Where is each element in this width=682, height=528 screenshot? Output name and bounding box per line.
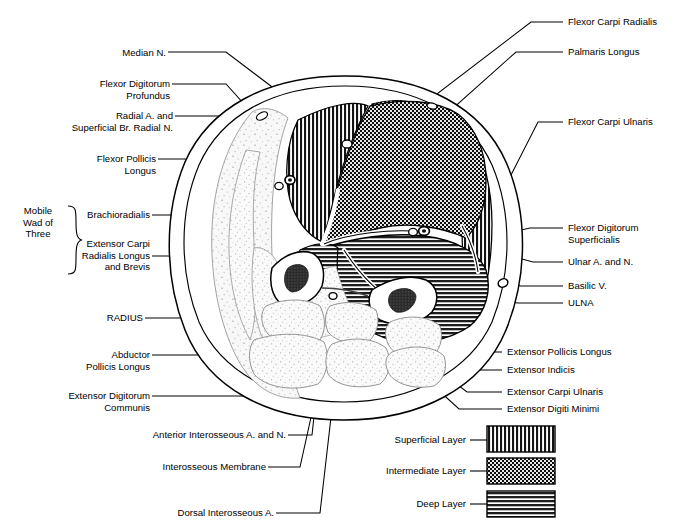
label-extensor-pollicis-longus: Extensor Pollicis Longus [507, 346, 612, 358]
ulnar-nerve [409, 228, 418, 235]
label-flexor-digitorum-profundus: Flexor Digitorum Profundus [100, 78, 170, 101]
label-palmaris-longus: Palmaris Longus [568, 46, 639, 58]
label-basilic-v: Basilic V. [568, 280, 607, 292]
legend-swatch-deep [487, 491, 555, 517]
label-anterior-interosseous-a-and-n: Anterior Interosseous A. and N. [153, 429, 286, 441]
extensor-digitorum-communis-muscle [250, 334, 328, 388]
extensor-pollicis-longus-muscle [326, 303, 378, 343]
legend-swatch-superficial [487, 426, 555, 452]
label-mobile-wad-of-three: Mobile Wad of Three [12, 205, 64, 240]
label-radius: RADIUS [107, 312, 143, 324]
legend-label-intermediate-layer: Intermediate Layer [386, 465, 466, 477]
anterior-interosseous-artery [329, 293, 337, 300]
label-flexor-pollicis-longus: Flexor Pollicis Longus [97, 153, 156, 176]
label-ulna: ULNA [568, 297, 594, 309]
label-flexor-digitorum-superficialis: Flexor Digitorum Superficialis [568, 222, 638, 245]
label-abductor-pollicis-longus: Abductor Pollicis Longus [86, 349, 150, 372]
label-flexor-carpi-ulnaris: Flexor Carpi Ulnaris [568, 116, 653, 128]
legend-label-deep-layer: Deep Layer [416, 498, 466, 510]
extensor-indicis-muscle [326, 339, 389, 387]
superficial-radial-nerve [275, 182, 283, 189]
label-extensor-digitorum-communis: Extensor Digitorum Communis [68, 390, 150, 413]
label-extensor-digiti-minimi: Extensor Digiti Minimi [507, 403, 599, 415]
legend-label-superficial-layer: Superficial Layer [395, 434, 466, 446]
label-ulnar-a-and-n: Ulnar A. and N. [568, 256, 633, 268]
label-brachioradialis: Brachioradialis [87, 209, 150, 221]
legend-swatch-intermediate [487, 458, 555, 484]
legend-swatches [470, 426, 555, 517]
median-nerve [342, 140, 352, 148]
forearm-cross-section-figure: Median N. Flexor Digitorum Profundus Rad… [0, 0, 682, 528]
label-median-n: Median N. [122, 47, 166, 59]
label-interosseous-membrane: Interosseous Membrane [163, 461, 266, 473]
label-radial-a-and-superficial-br-radial-n: Radial A. and Superficial Br. Radial N. [72, 110, 173, 133]
label-dorsal-interosseous-a: Dorsal Interosseous A. [177, 507, 274, 519]
label-extensor-indicis: Extensor Indicis [507, 364, 575, 376]
label-flexor-carpi-radialis: Flexor Carpi Radialis [568, 16, 657, 28]
mobile-wad-brace [68, 206, 82, 274]
label-extensor-carpi-ulnaris: Extensor Carpi Ulnaris [507, 386, 603, 398]
label-extensor-carpi-radialis-longus-and-brevis: Extensor Carpi Radialis Longus and Brevi… [82, 238, 150, 273]
